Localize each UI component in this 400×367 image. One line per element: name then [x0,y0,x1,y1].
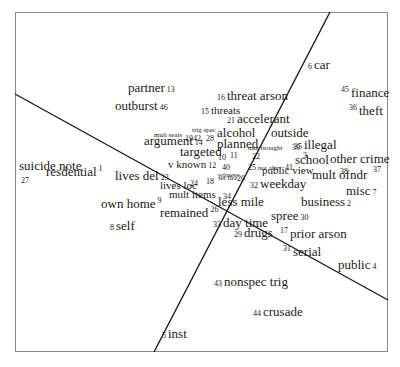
item-number: 4 [371,262,377,271]
item-label: business [301,194,345,209]
item-33: 33 day time [213,216,268,229]
item-number: 37 [373,165,381,174]
item-number: 30 [298,213,308,222]
item-number: 11 [230,151,238,160]
item-2: business 2 [301,195,351,208]
item-27: suicide note27 [19,159,81,185]
item-label: day time [223,215,268,230]
item-number: 29 [234,230,244,239]
item-4: public 4 [338,258,377,271]
ssa-diagram: resdential 1business 23public 45 inst6 c… [0,0,400,367]
item-label: v known [168,158,206,170]
item-number: 46 [158,103,168,112]
item-number: 32 [250,181,260,190]
item-13: partner 13 [128,81,175,94]
item-label: spree [271,208,298,223]
item-44: 44 crusade [253,305,303,318]
item-number: 27 [19,176,29,185]
item-label: inst [168,326,187,341]
item-label: finance [351,85,389,100]
item-22: 22 [252,153,260,161]
item-number: 25 [248,163,258,172]
item-30: spree 30 [271,209,308,222]
facet-label: other crime [330,152,390,165]
facet-label: set fire [218,175,237,182]
item-label: misc [346,183,371,198]
item-label: nonspec trig [224,274,288,289]
facet-label: mut brought [248,145,282,152]
item-number: 31 [283,244,293,253]
item-number: 9 [156,196,162,205]
item-number: 39 [292,143,300,152]
item-number: 12 [206,161,216,170]
item-label: crusade [263,304,303,319]
item-label: prior arson [290,226,347,241]
item-label: car [314,57,330,72]
item-46: outburst 46 [115,99,168,112]
item-label: outburst [115,98,158,113]
item-label: serial [293,244,321,259]
item-number: 15 [201,107,211,116]
item-label: self [116,218,135,233]
facet-label: targeted [180,145,222,158]
item-number: 19 [185,134,193,143]
item-39: 39 [292,144,300,152]
facet-label: mult ofndr [312,168,367,181]
item-5: 5 inst [162,327,187,340]
item-21: 21 accelerant [227,112,290,125]
item-label: remained [160,205,208,220]
item-6: 6 car [308,58,330,71]
item-label: theft [359,103,383,118]
item-label: partner [128,80,165,95]
item-17: 17 prior arson [280,227,347,240]
item-label: own home [101,196,156,211]
item-label: weekday [260,176,306,191]
item-45: 45 finance [341,86,389,99]
item-number: 13 [165,85,175,94]
item-43: 43 nonspec trig [214,275,288,288]
item-number: 42 [193,134,201,143]
facet-label: less mile [218,195,264,208]
item-9: own home 9 [101,197,162,210]
facet-label: mult seats [154,132,182,139]
item-19: 19 [185,135,193,143]
item-26: remained 26 [160,206,218,219]
item-8: 8 self [110,219,135,232]
item-number: 43 [214,279,224,288]
item-31: 31 serial [283,245,321,258]
item-number: 21 [227,116,237,125]
item-number: 33 [213,220,223,229]
item-label: public [338,257,371,272]
item-18: 18 [206,178,214,186]
item-number: 28 [206,134,214,143]
item-12: v known 12 [168,159,216,170]
item-label: lives del [115,168,159,183]
item-number: 17 [280,226,290,235]
item-number: 18 [206,177,214,186]
item-28: 28 [206,135,214,143]
item-37: 37 [373,166,381,174]
item-number: 45 [341,85,351,94]
item-16: 16 threat arson [217,89,288,102]
item-number: 16 [217,93,227,102]
item-number: 2 [345,199,351,208]
item-number: 44 [253,309,263,318]
facet-label: outside [271,126,309,139]
item-32: 32 weekday [250,177,306,190]
facet-label: public view [262,165,314,176]
item-number: 26 [208,205,218,214]
item-number: 1 [97,164,103,173]
facet-label: trig spec [192,127,216,134]
item-36: 36 theft [349,104,383,117]
item-label: threat arson [227,88,288,103]
facet-label: mult items [169,189,216,200]
item-42: 42 [193,135,201,143]
item-11: 11 [230,152,238,160]
item-number: 36 [349,103,359,112]
item-number: 7 [371,188,377,197]
item-label: suicide note [19,158,81,173]
item-7: misc 7 [346,184,377,197]
item-number: 22 [252,152,260,161]
item-label: accelerant [237,111,290,126]
